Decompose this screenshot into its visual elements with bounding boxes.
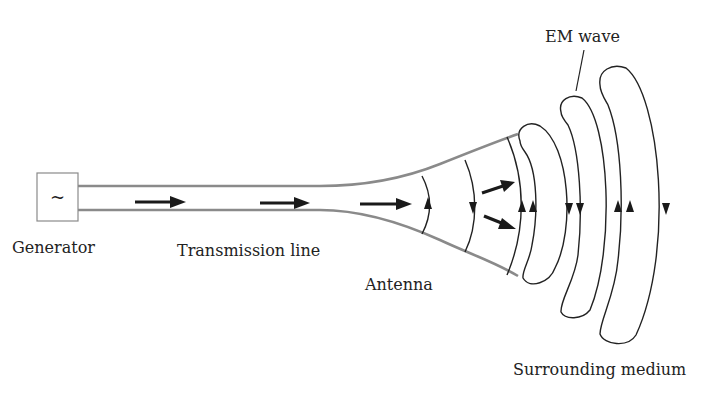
em-wave-label: EM wave <box>545 27 620 46</box>
down-arrow-icon <box>565 203 573 215</box>
arrowhead-icon <box>498 218 516 229</box>
generator-label: Generator <box>12 238 95 257</box>
wave-arrows <box>135 180 516 229</box>
antenna-diagram: ~ Generator Transmission line Antenna <box>0 0 710 393</box>
up-arrow-icon <box>518 200 526 212</box>
down-arrow-icon <box>469 202 477 214</box>
ac-source-icon: ~ <box>50 186 65 207</box>
arrowhead-icon <box>396 198 412 210</box>
upper-conductor <box>78 134 518 186</box>
up-arrow-icon <box>424 197 432 209</box>
arrowhead-icon <box>500 180 515 192</box>
surrounding-medium-label: Surrounding medium <box>513 360 686 379</box>
down-arrow-icon <box>662 203 670 215</box>
arrowhead-icon <box>170 196 186 208</box>
up-arrow-icon <box>626 200 634 212</box>
em-wave-leader-line <box>576 50 584 91</box>
em-wave-loops <box>518 66 670 343</box>
field-line <box>507 137 521 275</box>
wave-loop-1 <box>519 124 567 284</box>
generator: ~ <box>37 173 78 221</box>
antenna-label: Antenna <box>364 275 433 294</box>
down-arrow-icon <box>576 203 584 215</box>
arrowhead-icon <box>294 197 310 209</box>
arrow-icon <box>482 186 503 193</box>
transmission-line-label: Transmission line <box>177 241 320 260</box>
